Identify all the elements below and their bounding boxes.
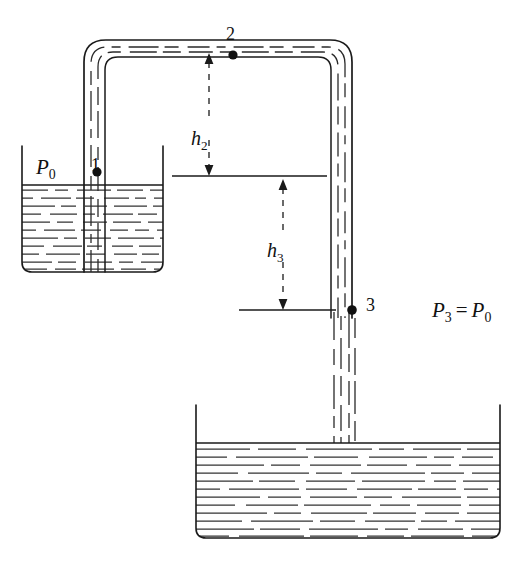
lower-reservoir-liquid-hatch [196,449,500,536]
label-ambient-pressure-subscript: 0 [49,167,56,182]
label-ambient-pressure-symbol: P [36,155,49,179]
h3-arrowhead-down [279,299,288,310]
h2-dimension-arrow [205,53,214,176]
lower-reservoir-wall [196,405,500,538]
tube-inner-wall-right [105,57,331,318]
label-pressure-eq-right-symbol: P [472,298,485,322]
label-pressure-equation: P3=P0 [432,300,491,325]
label-point-3: 3 [366,296,375,314]
label-height-h3-symbol: h [267,239,277,261]
falling-liquid-stream [334,312,355,443]
tube-fluid-streamlines [91,47,345,318]
label-pressure-eq-operator: = [452,298,472,322]
tube-outer-wall-left [84,40,352,318]
label-ambient-pressure: P0 [36,157,56,182]
label-point-1: 1 [91,156,100,174]
point-marker-2 [228,50,237,59]
label-point-2: 2 [226,25,235,43]
label-height-h2-subscript: 2 [201,138,208,153]
h2-arrowhead-down [205,165,214,176]
label-pressure-eq-right-subscript: 0 [484,310,491,325]
label-height-h3-subscript: 3 [277,250,284,265]
label-height-h3: h3 [267,240,284,264]
h2-arrowhead-up [205,53,214,64]
upper-beaker-liquid-hatch [22,190,163,269]
label-pressure-eq-left-symbol: P [432,298,445,322]
lower-liquid-reservoir [196,405,500,538]
siphon-diagram-canvas [0,0,516,568]
label-height-h2-symbol: h [191,127,201,149]
label-pressure-eq-left-subscript: 3 [445,310,452,325]
siphon-figure: P0 1 2 3 h2 h3 P3=P0 [0,0,516,568]
h3-arrowhead-up [279,179,288,190]
point-marker-3 [347,305,357,315]
siphon-tube [84,40,352,318]
label-height-h2: h2 [191,128,208,152]
